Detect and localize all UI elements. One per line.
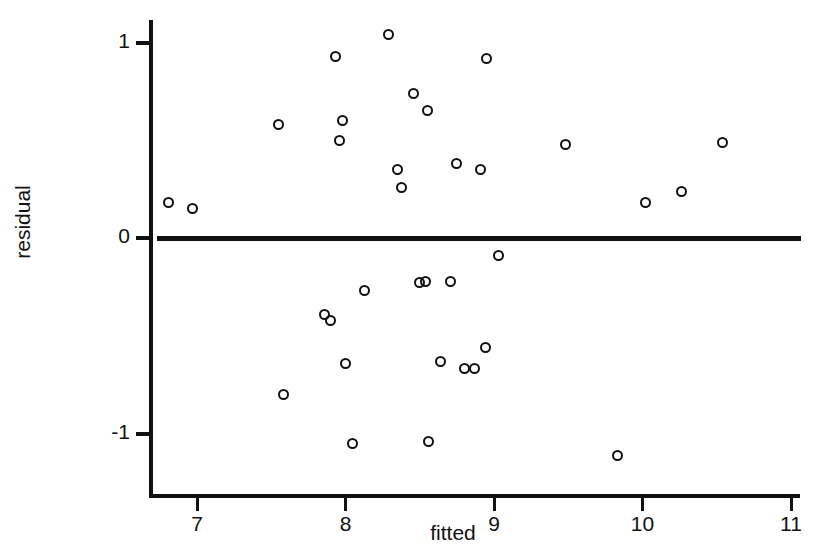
y-axis-line <box>149 20 153 498</box>
data-point <box>640 197 651 208</box>
data-point <box>359 285 370 296</box>
x-tick <box>196 498 199 511</box>
x-tick <box>344 498 347 511</box>
data-point <box>475 164 486 175</box>
residual-plot: 10-1 7891011 fitted residual <box>0 0 826 555</box>
data-point <box>396 182 407 193</box>
y-tick <box>136 432 150 436</box>
y-tick-label: -1 <box>86 420 130 444</box>
y-tick-label: 0 <box>86 224 130 248</box>
data-point <box>435 356 446 367</box>
x-axis-title: fitted <box>0 521 826 545</box>
data-point <box>420 276 431 287</box>
data-point <box>337 115 348 126</box>
data-point <box>325 315 336 326</box>
data-point <box>451 158 462 169</box>
data-point <box>392 164 403 175</box>
data-point <box>480 342 491 353</box>
data-point <box>273 119 284 130</box>
data-point <box>423 436 434 447</box>
data-point <box>187 203 198 214</box>
data-point <box>493 250 504 261</box>
data-point <box>481 53 492 64</box>
data-point <box>340 358 351 369</box>
data-point <box>347 438 358 449</box>
data-point <box>278 389 289 400</box>
x-tick <box>493 498 496 511</box>
data-point <box>383 29 394 40</box>
x-tick <box>790 498 793 511</box>
data-point <box>330 51 341 62</box>
data-point <box>459 363 470 374</box>
data-point <box>408 88 419 99</box>
x-axis-line <box>149 494 800 498</box>
data-point <box>334 135 345 146</box>
data-point <box>717 137 728 148</box>
data-point <box>422 105 433 116</box>
y-tick-label: 1 <box>86 29 130 53</box>
data-point <box>560 139 571 150</box>
y-tick <box>136 236 150 240</box>
data-point <box>163 197 174 208</box>
y-tick <box>136 41 150 45</box>
zero-reference-line <box>157 236 801 241</box>
y-axis-title: residual <box>11 172 35 272</box>
data-point <box>445 276 456 287</box>
data-point <box>612 450 623 461</box>
x-axis-title-text: fitted <box>430 521 476 544</box>
x-tick <box>641 498 644 511</box>
data-point <box>469 363 480 374</box>
data-point <box>676 186 687 197</box>
